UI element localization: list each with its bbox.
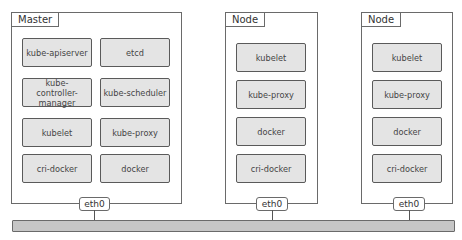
node2-component-kube-proxy: kube-proxy — [372, 80, 442, 109]
component-docker: docker — [100, 154, 170, 183]
component-kube-controller-manager: kube-controller-manager — [22, 78, 92, 107]
master-label: Master — [11, 12, 59, 27]
node2-label: Node — [361, 12, 401, 27]
node1-component-docker: docker — [236, 117, 306, 146]
node2-component-cri-docker: cri-docker — [372, 154, 442, 183]
node1-component-cri-docker: cri-docker — [236, 154, 306, 183]
node1-component-kube-proxy: kube-proxy — [236, 80, 306, 109]
master-eth0: eth0 — [79, 197, 110, 211]
node2-component-docker: docker — [372, 117, 442, 146]
component-kubelet: kubelet — [22, 118, 92, 147]
node1-eth0: eth0 — [256, 197, 288, 211]
node2-component-kubelet: kubelet — [372, 43, 442, 72]
node1-component-kubelet: kubelet — [236, 43, 306, 72]
node1-label: Node — [225, 12, 265, 27]
component-etcd: etcd — [100, 38, 170, 67]
component-kube-proxy: kube-proxy — [100, 118, 170, 147]
component-kube-scheduler: kube-scheduler — [100, 78, 170, 107]
network-bus — [12, 220, 455, 232]
node2-eth0: eth0 — [393, 197, 425, 211]
component-cri-docker: cri-docker — [22, 154, 92, 183]
component-kube-apiserver: kube-apiserver — [22, 38, 92, 67]
